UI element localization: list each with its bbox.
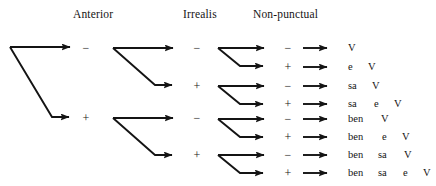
feature-nonpunctual-2: + [283,61,293,73]
output-morpheme: e [348,62,353,73]
output-morpheme: V [402,132,410,143]
output-morpheme: V [368,62,376,73]
output-morpheme: sa [378,168,387,179]
feature-anterior-minus: − [81,42,91,54]
output-morpheme: e [374,99,379,110]
output-morpheme: sa [378,150,387,161]
branch-root-plus [10,47,69,117]
output-morpheme: V [372,81,380,92]
output-morpheme: ben [348,114,363,125]
feature-irrealis-1: − [192,42,202,54]
output-morpheme: ben [348,132,363,143]
output-morpheme: V [381,114,389,125]
branch-l3d-plus [218,155,263,173]
feature-nonpunctual-1: − [283,42,293,54]
tree-branch-lines [0,0,436,186]
feature-irrealis-4: + [192,149,202,161]
output-morpheme: sa [348,81,357,92]
feature-irrealis-3: − [192,112,202,124]
feature-nonpunctual-4: + [283,98,293,110]
output-morpheme: e [403,168,408,179]
branch-l2b-plus [113,118,172,155]
branch-l3b-plus [218,86,263,104]
feature-nonpunctual-5: − [283,113,293,125]
output-morpheme: V [348,43,356,54]
branch-l3c-plus [218,119,263,137]
column-header-irrealis: Irrealis [183,8,217,20]
branch-l2a-plus [113,48,172,85]
feature-irrealis-2: + [192,80,202,92]
output-morpheme: V [404,150,412,161]
output-morpheme: sa [348,99,357,110]
feature-anterior-plus: + [81,112,91,124]
branch-l3a-plus [218,48,263,66]
feature-nonpunctual-7: − [283,149,293,161]
output-morpheme: V [394,99,402,110]
column-header-non-punctual: Non-punctual [253,8,318,20]
output-morpheme: ben [348,150,363,161]
output-morpheme: e [382,132,387,143]
output-morpheme: ben [348,168,363,179]
output-morpheme: V [423,168,431,179]
column-header-anterior: Anterior [73,8,113,20]
feature-nonpunctual-6: + [283,131,293,143]
feature-tree-diagram: Anterior Irrealis Non-punctual − + − + −… [0,0,436,186]
feature-nonpunctual-3: − [283,80,293,92]
feature-nonpunctual-8: + [283,167,293,179]
